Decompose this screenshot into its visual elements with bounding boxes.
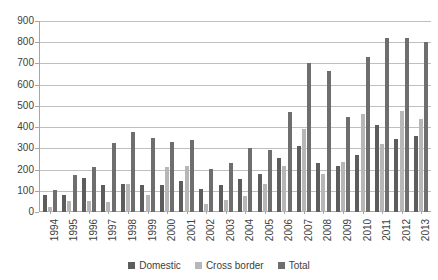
x-axis-label-cell: 2001 [177, 214, 197, 258]
x-axis-tick-label: 1994 [50, 219, 60, 241]
x-axis-label-cell: 2005 [255, 214, 275, 258]
bar-cross-border [243, 196, 247, 212]
x-axis-tick [402, 211, 403, 214]
x-axis-tick [187, 211, 188, 214]
bar-domestic [316, 163, 320, 212]
y-axis-tick [35, 212, 39, 213]
bar-group [196, 21, 216, 212]
x-axis-tick [421, 211, 422, 214]
x-axis-tick-label: 2007 [304, 219, 314, 241]
bar-total [73, 175, 77, 212]
x-axis-label-cell: 2013 [411, 214, 431, 258]
x-axis-label-cell: 1997 [99, 214, 119, 258]
x-axis-label-cell: 2007 [294, 214, 314, 258]
bar-group [79, 21, 99, 212]
y-axis-tick-label: 400 [0, 122, 34, 132]
x-axis-label-cell: 2002 [196, 214, 216, 258]
y-axis-tick-label: 500 [0, 101, 34, 111]
bar-total [131, 132, 135, 212]
x-axis-label-cell: 2003 [216, 214, 236, 258]
y-axis-tick-label: 900 [0, 16, 34, 26]
bar-domestic [219, 185, 223, 212]
bar-group [216, 21, 236, 212]
legend-label: Domestic [139, 260, 181, 271]
bar-group [275, 21, 295, 212]
bar-total [385, 38, 389, 212]
x-axis-labels: 1994199519961997199819992000200120022003… [40, 214, 431, 258]
bar-domestic [179, 181, 183, 212]
legend-label: Total [289, 260, 310, 271]
x-axis-label-cell: 2008 [314, 214, 334, 258]
bar-group [157, 21, 177, 212]
x-axis-tick-label: 2000 [167, 219, 177, 241]
bar-total [405, 38, 409, 212]
bar-cross-border [302, 129, 306, 212]
x-axis-tick-label: 1998 [128, 219, 138, 241]
bar-domestic [160, 185, 164, 212]
bar-domestic [336, 166, 340, 212]
bar-total [424, 42, 428, 212]
x-axis-tick-label: 2010 [363, 219, 373, 241]
y-axis-tick-label: 200 [0, 165, 34, 175]
x-axis-label-cell: 1999 [138, 214, 158, 258]
bar-domestic [62, 195, 66, 212]
bar-total [346, 117, 350, 213]
bar-cross-border [321, 174, 325, 212]
x-axis-tick [167, 211, 168, 214]
bar-total [53, 190, 57, 212]
bar-group [353, 21, 373, 212]
bar-total [229, 163, 233, 212]
y-axis-labels: 9008007006005004003002001000 [0, 0, 34, 280]
x-axis-tick [69, 211, 70, 214]
x-axis-tick [148, 211, 149, 214]
x-axis-tick-label: 2004 [245, 219, 255, 241]
legend-label: Cross border [206, 260, 264, 271]
x-axis-tick [363, 211, 364, 214]
x-axis-tick [304, 211, 305, 214]
x-axis-tick-label: 2011 [382, 219, 392, 241]
x-axis-label-cell: 2000 [157, 214, 177, 258]
bar-group [99, 21, 119, 212]
bar-domestic [82, 178, 86, 212]
bar-total [366, 57, 370, 212]
bar-cross-border [263, 184, 267, 212]
x-axis-tick-label: 2008 [323, 219, 333, 241]
bar-domestic [277, 158, 281, 212]
x-axis-label-cell: 1994 [40, 214, 60, 258]
legend-item[interactable]: Total [278, 260, 310, 271]
bar-domestic [297, 146, 301, 212]
x-axis-tick-label: 1995 [69, 219, 79, 241]
legend-item[interactable]: Cross border [195, 260, 264, 271]
x-axis-tick-label: 1999 [148, 219, 158, 241]
x-axis-label-cell: 2011 [372, 214, 392, 258]
x-axis-tick [245, 211, 246, 214]
bar-domestic [375, 125, 379, 212]
bar-total [190, 140, 194, 212]
bar-group [333, 21, 353, 212]
bar-cross-border [361, 114, 365, 212]
bar-group [118, 21, 138, 212]
bar-total [209, 169, 213, 213]
bar-total [288, 112, 292, 212]
bar-cross-border [341, 162, 345, 212]
bar-total [248, 148, 252, 212]
x-axis-tick [206, 211, 207, 214]
bar-domestic [238, 179, 242, 212]
bar-cross-border [282, 166, 286, 212]
bar-domestic [394, 139, 398, 212]
x-axis-tick-label: 2005 [265, 219, 275, 241]
bar-cross-border [126, 184, 130, 212]
bar-cross-border [400, 111, 404, 212]
legend-item[interactable]: Domestic [128, 260, 181, 271]
bars-layer [40, 21, 431, 212]
bar-group [138, 21, 158, 212]
x-axis-label-cell: 2012 [392, 214, 412, 258]
bar-chart: 9008007006005004003002001000 19941995199… [0, 0, 438, 280]
x-axis-tick-label: 2002 [206, 219, 216, 241]
legend-swatch-icon [195, 262, 202, 269]
x-axis-tick [50, 211, 51, 214]
bar-group [60, 21, 80, 212]
y-axis-tick-label: 800 [0, 37, 34, 47]
x-axis-label-cell: 1996 [79, 214, 99, 258]
x-axis-tick [284, 211, 285, 214]
